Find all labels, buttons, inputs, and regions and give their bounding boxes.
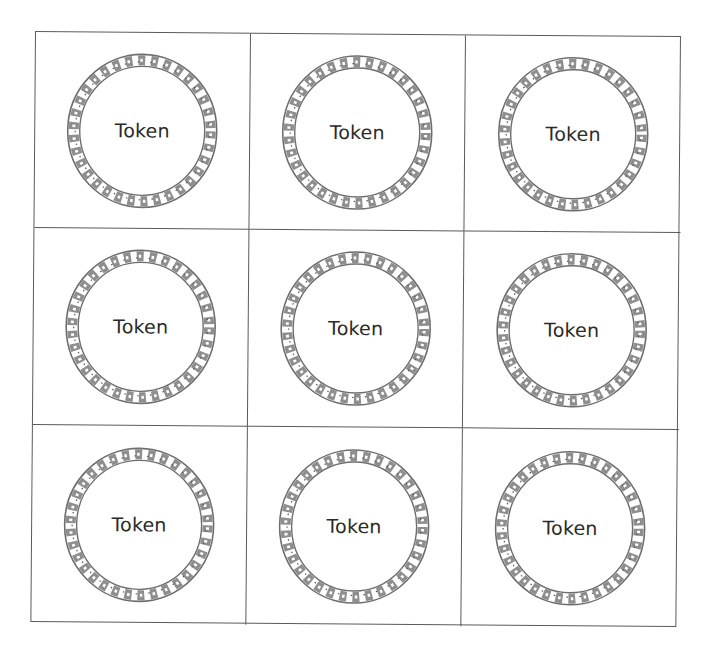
token: Token	[279, 250, 432, 407]
token-label: Token	[281, 120, 433, 143]
token-label: Token	[278, 514, 430, 537]
token-cell-6: Token	[463, 231, 681, 430]
token-cell-2: Token	[249, 34, 466, 232]
token-cell-7: Token	[31, 425, 248, 625]
token-cell-5: Token	[248, 230, 465, 429]
token-label: Token	[497, 122, 649, 145]
token: Token	[63, 446, 216, 603]
token-cell-3: Token	[464, 35, 682, 233]
token: Token	[278, 448, 431, 605]
token-label: Token	[65, 315, 217, 338]
token-label: Token	[496, 318, 648, 341]
token-label: Token	[494, 516, 646, 539]
token-cell-9: Token	[461, 428, 679, 628]
token: Token	[494, 450, 647, 607]
token-sheet: Token Token Token Token Token	[30, 31, 681, 627]
token-label: Token	[66, 118, 218, 141]
token-cell-4: Token	[33, 228, 250, 427]
token: Token	[66, 52, 219, 209]
token: Token	[281, 53, 434, 210]
token: Token	[64, 248, 217, 405]
token-cell-8: Token	[246, 427, 463, 627]
token-grid: Token Token Token Token Token	[30, 31, 681, 627]
token: Token	[495, 252, 648, 409]
token-cell-1: Token	[34, 32, 251, 230]
token-label: Token	[63, 513, 215, 536]
token-label: Token	[280, 316, 432, 339]
token: Token	[497, 55, 650, 212]
